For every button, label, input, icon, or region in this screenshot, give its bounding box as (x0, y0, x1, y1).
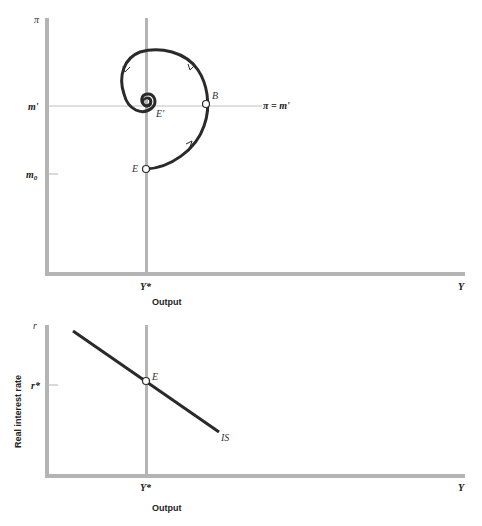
top-ystar-line (145, 18, 148, 272)
bottom-point-E (143, 378, 150, 385)
top-adjustment-path (122, 50, 208, 169)
top-point-E (143, 166, 150, 173)
bottom-ystar-line (145, 325, 148, 474)
bottom-y-axis-label: r (33, 320, 37, 331)
top-point-B (203, 101, 210, 108)
top-x-title: Output (152, 297, 182, 307)
bottom-x-tick-ystar: Y* (140, 482, 152, 493)
bottom-label-IS: IS (220, 432, 229, 443)
bottom-x-end-label: Y (458, 482, 465, 493)
bottom-x-title: Output (152, 503, 182, 513)
top-hline-label: π = m' (263, 100, 290, 111)
top-x-end-label: Y (458, 281, 465, 292)
top-label-Eprime: E' (155, 108, 165, 119)
top-label-E: E (131, 163, 138, 174)
bottom-label-E: E (151, 371, 158, 382)
bottom-x-axis (45, 474, 465, 478)
top-y-axis (45, 18, 49, 276)
bottom-chart: r r* Real interest rate E IS Y* Y Output (13, 320, 465, 513)
top-x-axis (45, 272, 465, 276)
top-y-axis-label: π (34, 14, 40, 25)
top-x-tick-ystar: Y* (140, 281, 152, 292)
bottom-y-tick-rstar: r* (31, 380, 41, 391)
figure: π m' m0 π = m' Y* Y Output E B E' r r* R… (0, 0, 482, 526)
top-label-B: B (212, 90, 218, 101)
bottom-y-axis (45, 325, 49, 477)
top-y-tick-m0: m0 (26, 169, 38, 182)
top-y-tick-mprime: m' (28, 101, 39, 112)
top-chart: π m' m0 π = m' Y* Y Output E B E' (26, 14, 465, 307)
bottom-y-title: Real interest rate (13, 375, 23, 448)
